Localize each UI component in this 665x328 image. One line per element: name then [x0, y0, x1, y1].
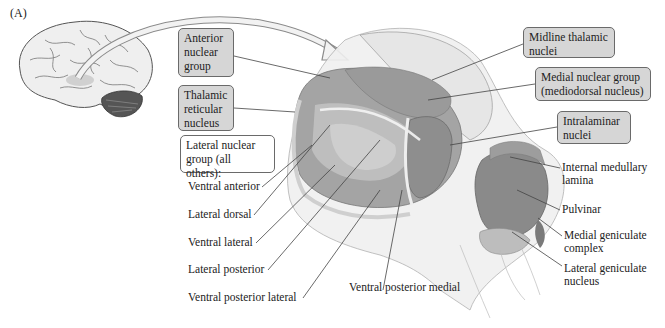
label-ventral-lateral: Ventral lateral [188, 236, 253, 249]
medial-nuclear-group-box: Medial nuclear group (mediodorsal nucleu… [535, 67, 651, 101]
label-line: Lateral geniculate [564, 262, 647, 275]
label-line: nucleus [564, 275, 647, 288]
label-lateral-posterior: Lateral posterior [188, 263, 264, 276]
label-internal-medullary-lamina: Internal medullary lamina [562, 161, 647, 187]
label-ventral-posterior-medial: Ventral posterior medial [349, 281, 460, 294]
box-text-line: group [184, 59, 228, 73]
label-medial-geniculate-complex: Medial geniculate complex [564, 229, 647, 255]
label-line: complex [564, 242, 647, 255]
box-text-line: nuclear [184, 45, 228, 59]
box-text-line: Anterior [184, 31, 228, 45]
label-line: Medial geniculate [564, 229, 647, 242]
box-text-line: group (all others): [186, 152, 269, 180]
thalamic-reticular-nucleus-box: Thalamic reticular nucleus [178, 85, 234, 131]
box-text-line: Lateral nuclear [186, 138, 269, 152]
label-line: lamina [562, 174, 647, 187]
intralaminar-nuclei-box: Intralaminar nuclei [557, 111, 631, 144]
thalamus-body [287, 28, 564, 318]
box-text-line: Medial nuclear group [541, 70, 645, 84]
box-text-line: Intralaminar [563, 114, 625, 128]
box-text-line: reticular [184, 102, 228, 116]
box-text-line: (mediodorsal nucleus) [541, 84, 645, 98]
label-ventral-anterior: Ventral anterior [188, 180, 260, 193]
box-text-line: nuclei [563, 128, 625, 142]
lateral-nuclear-group-box: Lateral nuclear group (all others): [180, 135, 275, 173]
anterior-nuclear-group-box: Anterior nuclear group [178, 28, 234, 77]
label-line: Internal medullary [562, 161, 647, 174]
label-pulvinar: Pulvinar [562, 203, 601, 216]
label-lateral-dorsal: Lateral dorsal [188, 208, 252, 221]
midline-thalamic-nuclei-box: Midline thalamic nuclei [523, 27, 615, 58]
box-text-line: Midline thalamic [529, 30, 609, 44]
box-text-line: nucleus [184, 116, 228, 130]
label-lateral-geniculate-nucleus: Lateral geniculate nucleus [564, 262, 647, 288]
box-text-line: Thalamic [184, 88, 228, 102]
label-ventral-posterior-lateral: Ventral posterior lateral [188, 291, 297, 304]
box-text-line: nuclei [529, 44, 609, 58]
